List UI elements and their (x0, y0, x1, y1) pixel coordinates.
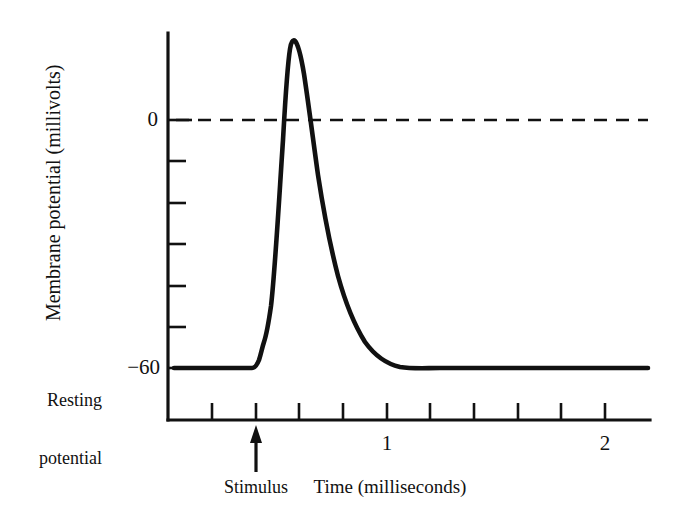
x-tick-label-2: 2 (590, 432, 620, 455)
resting-potential-annotation: Resting potential (10, 352, 102, 508)
plot-canvas (0, 0, 680, 525)
stimulus-label: Stimulus (200, 478, 312, 497)
y-axis-title: Membrane potential (millivolts) (43, 63, 65, 323)
y-tick-label-minus60: −60 (104, 356, 160, 379)
action-potential-figure: Membrane potential (millivolts) 0 −60 Re… (0, 0, 680, 525)
resting-potential-line1: Resting (10, 391, 102, 410)
x-tick-label-1: 1 (372, 432, 402, 455)
x-axis-title: Time (milliseconds) (300, 477, 480, 498)
y-tick-label-0: 0 (132, 108, 158, 131)
resting-potential-line2: potential (10, 449, 102, 468)
stimulus-arrow-icon (250, 425, 262, 472)
membrane-potential-trace (174, 40, 648, 368)
